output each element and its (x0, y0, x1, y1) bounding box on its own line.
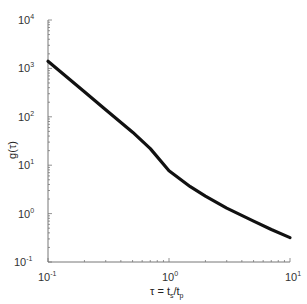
chart-svg: 104 103 102 101 100 10-1 10-1 100 101 τ … (0, 0, 307, 304)
y-tick-label-1e1: 101 (18, 158, 34, 171)
y-tick-label-1e4: 104 (18, 13, 34, 26)
data-curve (48, 61, 290, 237)
y-axis-label: g(τ) (6, 141, 18, 159)
x-tick-label-1e-1: 10-1 (38, 270, 57, 283)
ticks (48, 20, 290, 262)
x-axis-label: τ = ts/tp (150, 285, 184, 300)
x-tick-label-1e0: 100 (162, 270, 178, 283)
y-tick-label-1e-1: 10-1 (14, 255, 33, 268)
axes (48, 20, 290, 262)
y-tick-label-1e3: 103 (18, 61, 34, 74)
x-tick-label-1e1: 101 (285, 270, 301, 283)
y-tick-label-1e0: 100 (18, 207, 34, 220)
y-tick-label-1e2: 102 (18, 110, 34, 123)
